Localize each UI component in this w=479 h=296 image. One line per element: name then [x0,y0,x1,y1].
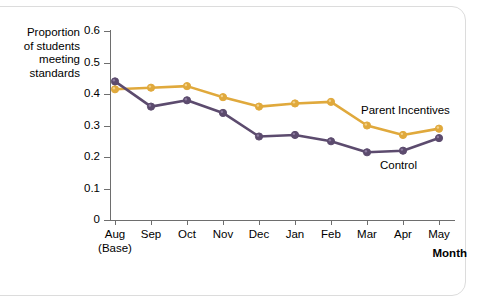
data-point [291,100,298,107]
data-point-highlight [221,95,223,97]
data-point [327,138,334,145]
data-point-highlight [437,136,439,138]
data-point-highlight [365,150,367,152]
data-point-highlight [149,104,151,106]
data-point [255,133,262,140]
data-point-highlight [329,100,331,102]
data-point-highlight [185,84,187,86]
data-point-highlight [257,104,259,106]
data-point-highlight [437,126,439,128]
data-point [435,135,442,142]
data-point-highlight [401,133,403,135]
series-control [111,78,442,156]
data-point [111,78,118,85]
data-point [363,122,370,129]
data-point [147,103,154,110]
data-point-highlight [293,133,295,135]
data-point [147,84,154,91]
data-point-highlight [221,111,223,113]
data-point [219,109,226,116]
series-line [115,81,439,152]
data-point [435,125,442,132]
data-point [399,147,406,154]
data-point [399,131,406,138]
data-point [363,149,370,156]
x-axis-title: Month [433,247,467,259]
data-point [219,94,226,101]
data-point [183,83,190,90]
data-point-highlight [113,79,115,81]
series-label-control: Control [380,159,417,171]
data-point-highlight [365,123,367,125]
data-point-highlight [329,139,331,141]
data-point-highlight [401,148,403,150]
data-point-highlight [293,101,295,103]
data-point-highlight [257,134,259,136]
data-point [255,103,262,110]
data-point [111,86,118,93]
data-point [291,131,298,138]
data-point-highlight [113,87,115,89]
data-point-highlight [149,85,151,87]
data-point-highlight [185,98,187,100]
data-point [327,98,334,105]
series-label-parent-incentives: Parent Incentives [361,104,450,116]
data-point [183,97,190,104]
